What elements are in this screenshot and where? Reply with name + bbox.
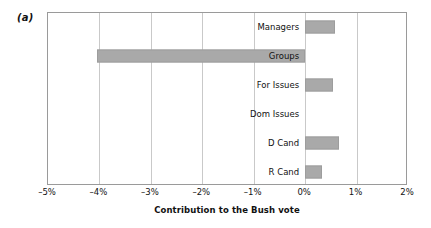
- x-axis-title: Contribution to the Bush vote: [47, 205, 407, 215]
- x-tick-label: –5%: [38, 188, 56, 197]
- category-label: Groups: [269, 52, 303, 61]
- category-label: D Cand: [268, 138, 303, 147]
- x-tick-label: –3%: [141, 188, 159, 197]
- bars-layer: ManagersGroupsFor IssuesDom IssuesD Cand…: [48, 13, 406, 184]
- chart-figure: (a) ManagersGroupsFor IssuesDom IssuesD …: [0, 0, 431, 228]
- bar-row: Groups: [48, 42, 406, 71]
- panel-label: (a): [17, 12, 34, 23]
- bar-row: D Cand: [48, 128, 406, 157]
- x-tick-label: 2%: [400, 188, 414, 197]
- x-tick-label: –1%: [244, 188, 262, 197]
- x-tick-label: –4%: [90, 188, 108, 197]
- bar[interactable]: [305, 79, 333, 92]
- x-tick-label: 0%: [297, 188, 311, 197]
- bar[interactable]: [305, 165, 322, 178]
- bar[interactable]: [305, 21, 335, 34]
- bar[interactable]: [305, 136, 339, 149]
- category-label: Dom Issues: [250, 110, 303, 119]
- bar-row: Managers: [48, 13, 406, 42]
- x-tick-label: 1%: [349, 188, 363, 197]
- category-label: Managers: [257, 23, 303, 32]
- plot-area: ManagersGroupsFor IssuesDom IssuesD Cand…: [47, 12, 407, 185]
- category-label: R Cand: [269, 167, 304, 176]
- bar-row: For Issues: [48, 71, 406, 100]
- bar-row: Dom Issues: [48, 100, 406, 129]
- x-tick-label: –2%: [192, 188, 210, 197]
- bar-row: R Cand: [48, 157, 406, 186]
- x-axis-tick-labels: –5%–4%–3%–2%–1%0%1%2%: [0, 188, 431, 202]
- category-label: For Issues: [257, 81, 303, 90]
